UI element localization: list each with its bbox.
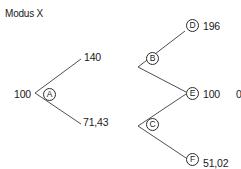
- edge-a-down: [35, 93, 81, 124]
- node-a: A: [43, 88, 56, 101]
- edge-c-f: [138, 126, 186, 158]
- edge-b-d: [138, 31, 185, 67]
- edge-a-up: [35, 59, 81, 93]
- node-d-value: 196: [203, 20, 220, 32]
- node-d: D: [186, 19, 199, 32]
- branch-down-value: 71,43: [83, 116, 108, 128]
- node-e: E: [186, 87, 199, 100]
- root-value: 100: [14, 88, 31, 100]
- node-b: B: [146, 52, 159, 65]
- truncated-value: 0: [236, 88, 241, 100]
- node-f-value: 51,02: [203, 157, 228, 169]
- edge-c-e: [138, 94, 186, 126]
- node-e-value: 100: [203, 88, 220, 100]
- node-f: F: [186, 153, 199, 166]
- edge-b-e: [138, 67, 186, 92]
- branch-up-value: 140: [84, 51, 101, 63]
- node-c: C: [146, 118, 159, 131]
